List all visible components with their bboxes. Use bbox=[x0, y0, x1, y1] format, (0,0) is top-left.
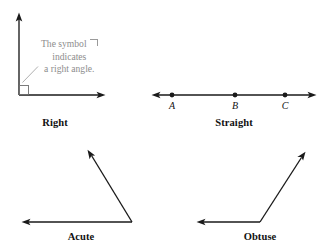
acute-upper-ray bbox=[92, 156, 133, 223]
callout-line-1: The symbol bbox=[41, 38, 87, 49]
right-angle-callout: The symbol indicates a right angle. bbox=[41, 38, 98, 76]
acute-angle-group bbox=[22, 150, 133, 226]
obtuse-angle-group bbox=[197, 152, 306, 226]
obtuse-upper-arrowhead bbox=[297, 152, 305, 161]
straight-point-b-dot bbox=[233, 93, 238, 98]
right-angle-symbol-icon bbox=[90, 39, 98, 46]
straight-point-label-c: C bbox=[282, 101, 289, 111]
label-right-angle: Right bbox=[42, 118, 68, 129]
obtuse-upper-ray bbox=[260, 158, 302, 223]
callout-line-2: indicates bbox=[52, 51, 86, 62]
label-obtuse-angle: Obtuse bbox=[244, 232, 277, 243]
straight-angle-group bbox=[152, 92, 317, 99]
label-acute-angle: Acute bbox=[68, 232, 95, 243]
straight-point-label-b: B bbox=[232, 101, 238, 111]
callout-leader-line bbox=[23, 67, 39, 83]
straight-point-a-dot bbox=[170, 93, 175, 98]
straight-point-c-dot bbox=[283, 93, 288, 98]
acute-upper-arrowhead bbox=[88, 150, 96, 159]
callout-line-3: a right angle. bbox=[44, 63, 94, 74]
angles-diagram-page: The symbol indicates a right angle. A B … bbox=[0, 0, 325, 252]
right-angle-mark-icon bbox=[20, 86, 29, 95]
straight-point-label-a: A bbox=[169, 101, 175, 111]
label-straight-angle: Straight bbox=[215, 118, 253, 129]
